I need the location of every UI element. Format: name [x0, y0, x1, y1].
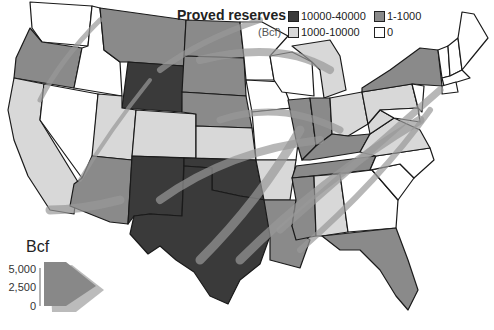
flow-scale-title: Bcf	[26, 238, 49, 256]
gas-reserves-map: Proved reserves (Bcf) 10000-40000 1-1000…	[0, 0, 494, 330]
us-map	[0, 0, 494, 330]
state-florida[interactable]	[322, 228, 418, 310]
state-south-dakota[interactable]	[182, 56, 246, 96]
legend-label: 0	[387, 26, 393, 38]
flow-scale-tick: 0	[2, 300, 36, 312]
legend-label: 10000-40000	[301, 10, 366, 22]
flow-scale-tick: 2,500	[2, 281, 36, 293]
legend-item-light: 1000-10000	[288, 26, 360, 38]
flow-scale-arrow	[40, 262, 104, 312]
legend-item-medium: 1-1000	[374, 10, 421, 22]
legend-unit: (Bcf)	[258, 26, 281, 38]
state-new-york[interactable]	[362, 48, 442, 92]
legend-swatch-medium	[374, 11, 385, 22]
legend-label: 1-1000	[387, 10, 421, 22]
state-colorado[interactable]	[132, 110, 196, 158]
flow-scale-tick: 5,000	[2, 263, 36, 275]
legend-title: Proved reserves	[177, 7, 286, 23]
legend-swatch-none	[374, 27, 385, 38]
legend-swatch-dark	[288, 11, 299, 22]
legend-label: 1000-10000	[301, 26, 360, 38]
state-maine[interactable]	[458, 12, 488, 70]
legend-item-dark: 10000-40000	[288, 10, 366, 22]
legend-item-none: 0	[374, 26, 393, 38]
legend-swatch-light	[288, 27, 299, 38]
